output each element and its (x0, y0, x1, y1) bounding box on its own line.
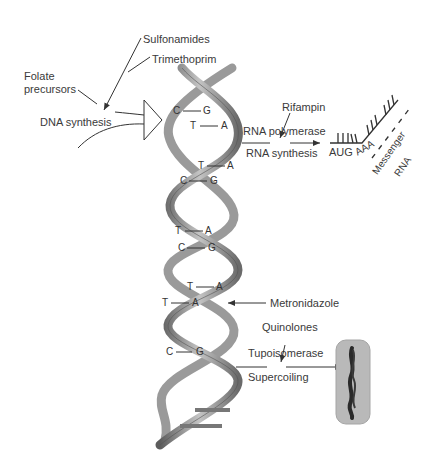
label-metronidazole: Metronidazole (270, 297, 339, 309)
base-right: A (227, 161, 234, 171)
base-right: A (216, 282, 223, 292)
base-right: G (196, 347, 204, 357)
base-left: T (175, 226, 181, 236)
folate-pathway-arrows (78, 38, 162, 148)
base-right: G (210, 176, 218, 186)
label-precursors: precursors (24, 83, 76, 95)
diagram-canvas (0, 0, 429, 453)
base-left: T (190, 121, 196, 131)
base-right: A (221, 121, 228, 131)
base-right: A (205, 226, 212, 236)
base-right: G (203, 106, 211, 116)
label-sulfonamides: Sulfonamides (143, 33, 210, 45)
base-left: C (166, 347, 173, 357)
label-aug: AUG (329, 146, 353, 158)
label-rifampin: Rifampin (282, 101, 325, 113)
base-left: C (178, 243, 185, 253)
label-rna-synthesis: RNA synthesis (246, 147, 318, 159)
base-right: A (192, 298, 199, 308)
base-left: T (162, 298, 168, 308)
base-left: C (180, 176, 187, 186)
label-rna-polymerase: RNA polymerase (243, 125, 326, 137)
label-quinolones: Quinolones (262, 321, 318, 333)
label-dna-synthesis: DNA synthesis (40, 116, 112, 128)
label-supercoiling: Supercoiling (248, 371, 309, 383)
base-left: C (173, 106, 180, 116)
base-right: G (208, 243, 216, 253)
label-folate: Folate (24, 70, 55, 82)
bacterium-icon (336, 340, 370, 424)
label-topoisomerase: Tupoisomerase (248, 347, 323, 359)
base-left: T (187, 282, 193, 292)
label-trimethoprim: Trimethoprim (152, 53, 216, 65)
base-left: T (198, 161, 204, 171)
